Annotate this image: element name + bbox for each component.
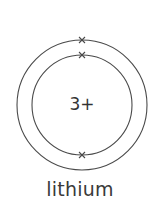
nucleus-charge: 3+ [52,94,112,114]
element-label: lithium [0,178,160,200]
